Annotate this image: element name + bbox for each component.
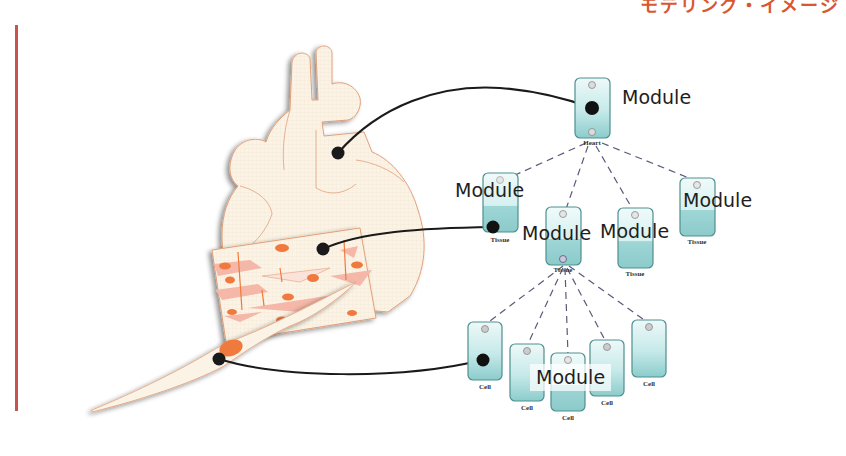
tissue-2-module-label: Module — [522, 224, 591, 243]
tissue-4-module-label: Module — [683, 191, 752, 210]
tissue-2-caption: Tissue — [554, 266, 573, 274]
tissue-1-caption: Tissue — [491, 236, 510, 244]
cell-1-caption: Cell — [479, 383, 491, 391]
cell-4-caption: Cell — [601, 399, 613, 407]
tissue-3-caption: Tissue — [626, 270, 645, 278]
cell-2-caption: Cell — [521, 404, 533, 412]
heart-node-caption: Heart — [583, 139, 601, 147]
heart-module-node[interactable] — [575, 78, 610, 138]
cell-module-node-1[interactable] — [468, 322, 502, 380]
tissue-4-caption: Tissue — [688, 238, 707, 246]
cell-3-caption: Cell — [562, 414, 574, 422]
tissue-3-module-label: Module — [600, 222, 669, 241]
heart-module-label: Module — [622, 88, 691, 107]
cell-connector — [213, 353, 484, 375]
cell-module-node-5[interactable] — [632, 320, 666, 377]
cell-group-module-label: Module — [530, 364, 611, 391]
tissue-1-module-label: Module — [455, 181, 524, 200]
cell-5-caption: Cell — [643, 380, 655, 388]
multiscale-diagram — [0, 0, 846, 456]
